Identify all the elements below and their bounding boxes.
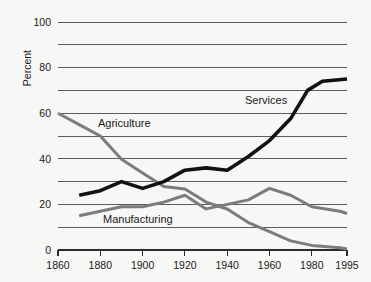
y-axis-title: Percent bbox=[21, 50, 33, 86]
line-chart: 100 80 60 40 20 0 1860 1880 1900 1920 19… bbox=[0, 0, 371, 282]
y-tick-label-0: 0 bbox=[45, 244, 51, 256]
y-tick-label-40: 40 bbox=[39, 153, 51, 165]
y-tick-label-80: 80 bbox=[39, 61, 51, 73]
x-tick-label-1880: 1880 bbox=[89, 259, 113, 271]
y-tick-label-100: 100 bbox=[33, 16, 51, 28]
y-tick-label-20: 20 bbox=[39, 198, 51, 210]
x-tick-label-1920: 1920 bbox=[173, 259, 197, 271]
x-tick-label-1860: 1860 bbox=[46, 259, 70, 271]
x-tick-label-1980: 1980 bbox=[300, 259, 324, 271]
series-label-manufacturing: Manufacturing bbox=[103, 213, 173, 225]
x-tick-label-1960: 1960 bbox=[258, 259, 282, 271]
chart-page: 100 80 60 40 20 0 1860 1880 1900 1920 19… bbox=[0, 0, 371, 282]
x-tick-label-1995: 1995 bbox=[335, 259, 359, 271]
series-label-services: Services bbox=[245, 94, 288, 106]
series-label-agriculture: Agriculture bbox=[98, 117, 151, 129]
x-tick-label-1940: 1940 bbox=[216, 259, 240, 271]
y-tick-label-60: 60 bbox=[39, 107, 51, 119]
chart-background bbox=[0, 0, 371, 282]
x-tick-label-1900: 1900 bbox=[131, 259, 155, 271]
